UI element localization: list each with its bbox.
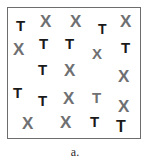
figure-panel-a: TXXTXXTTXTTXXTTXTXXXTT a. — [0, 0, 150, 167]
stimulus-letter-x: X — [22, 115, 33, 132]
stimulus-letter-t: T — [13, 85, 22, 100]
stimulus-letter-t: T — [98, 22, 107, 36]
stimulus-letter-x: X — [120, 13, 131, 30]
stimulus-letter-x: X — [70, 13, 81, 30]
figure-caption: a. — [0, 145, 150, 160]
stimulus-letter-x: X — [118, 68, 129, 85]
stimulus-letter-t: T — [39, 36, 48, 51]
stimulus-letter-x: X — [40, 13, 51, 30]
visual-search-stimulus-box: TXXTXXTTXTTXXTTXTXXXTT — [7, 7, 141, 139]
stimulus-letter-x: X — [64, 62, 75, 79]
stimulus-letter-t: T — [65, 36, 74, 51]
stimulus-letter-t: T — [90, 114, 99, 129]
stimulus-letter-x: X — [63, 90, 74, 107]
stimulus-letter-t: T — [121, 40, 130, 55]
stimulus-letter-t: T — [38, 62, 47, 77]
stimulus-letter-x: X — [92, 46, 102, 61]
stimulus-letter-t: T — [92, 90, 101, 105]
stimulus-letter-t: T — [16, 18, 25, 33]
stimulus-letter-t: T — [116, 119, 126, 135]
stimulus-letter-x: X — [118, 98, 129, 115]
stimulus-letter-x: X — [13, 41, 24, 58]
stimulus-letter-t: T — [38, 93, 47, 108]
stimulus-letter-x: X — [60, 114, 71, 131]
